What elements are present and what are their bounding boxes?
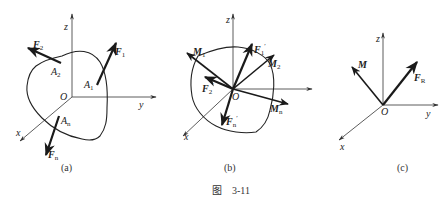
- fn-label: Fn: [47, 149, 59, 162]
- panel-c-label: (c): [397, 162, 408, 174]
- moment-m-arrow: [352, 67, 383, 105]
- a2-label: A2: [50, 66, 61, 79]
- x-axis: [339, 105, 383, 140]
- f1-prime-label: F1′: [253, 42, 266, 57]
- force-fr-arrow: [383, 62, 417, 105]
- fn-prime-label: Fn′: [225, 114, 238, 129]
- z-axis-label: z: [63, 21, 68, 32]
- a1-label: A1: [83, 79, 94, 92]
- force-f1-prime-arrow: [233, 44, 252, 89]
- z-axis-label: z: [225, 14, 230, 25]
- panel-a-label: (a): [61, 162, 72, 174]
- f1-label: F1: [114, 46, 126, 59]
- panel-b-label: (b): [224, 162, 236, 174]
- x-axis-label: x: [183, 131, 189, 142]
- panel-a: z y x O F2 A2 F1 A1 Fn An (a): [15, 14, 156, 174]
- y-axis-label: y: [138, 99, 144, 110]
- force-f1-arrow: [97, 43, 116, 85]
- figure-caption: 图 3-11: [212, 185, 250, 196]
- m2-label: M2: [267, 58, 281, 71]
- figure-3-11: z y x O F2 A2 F1 A1 Fn An (a) z x O M1 F…: [0, 0, 444, 199]
- fr-label: FR: [413, 72, 426, 85]
- x-axis-label: x: [15, 127, 21, 138]
- y-axis-label: y: [425, 108, 431, 119]
- m-label: M: [357, 59, 368, 70]
- origin-label: O: [232, 91, 239, 102]
- moment-mn-arrow: [233, 89, 288, 104]
- panel-b: z x O M1 F1′ M2 F2′ Mn Fn′ (b) 图 3-11: [183, 14, 312, 196]
- an-label: An: [60, 115, 71, 128]
- origin-label: O: [60, 91, 67, 102]
- m1-label: M1: [192, 46, 206, 59]
- x-axis-label: x: [339, 141, 345, 152]
- origin-label: O: [381, 106, 388, 117]
- panel-c: z y x O M FR (c): [339, 33, 438, 174]
- mn-label: Mn: [269, 103, 283, 116]
- moment-m1-arrow: [187, 53, 233, 89]
- z-axis-label: z: [375, 33, 380, 44]
- f2-prime-label: F2′: [201, 81, 214, 96]
